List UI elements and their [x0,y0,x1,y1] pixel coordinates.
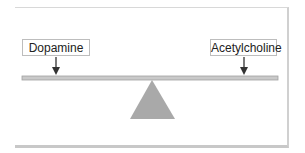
balance-beam [22,76,278,80]
seesaw-graphic [0,0,305,153]
dopamine-label: Dopamine [22,39,90,56]
right-arrow-icon [240,57,248,75]
acetylcholine-label: Acetylcholine [210,39,277,56]
left-arrow-icon [52,57,60,75]
fulcrum-triangle [130,80,175,119]
